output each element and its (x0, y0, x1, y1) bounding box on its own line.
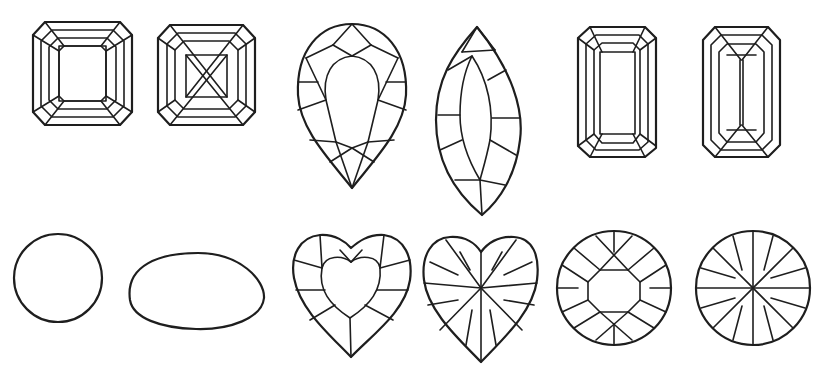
square-step-cut-crossed (158, 25, 255, 125)
oval-cabochon (130, 253, 265, 329)
square-step-cut (33, 22, 132, 125)
round-cabochon (14, 234, 102, 322)
emerald-step-cut-keel (703, 27, 780, 157)
marquise-brilliant-cut (436, 27, 521, 215)
gem-cuts-diagram (0, 0, 821, 377)
round-brilliant-cut-table (557, 231, 671, 345)
round-star-cut (696, 231, 810, 345)
emerald-step-cut (578, 27, 656, 157)
pear-brilliant-cut (298, 24, 406, 188)
heart-star-cut (424, 237, 538, 362)
heart-brilliant-cut-table (293, 235, 410, 357)
